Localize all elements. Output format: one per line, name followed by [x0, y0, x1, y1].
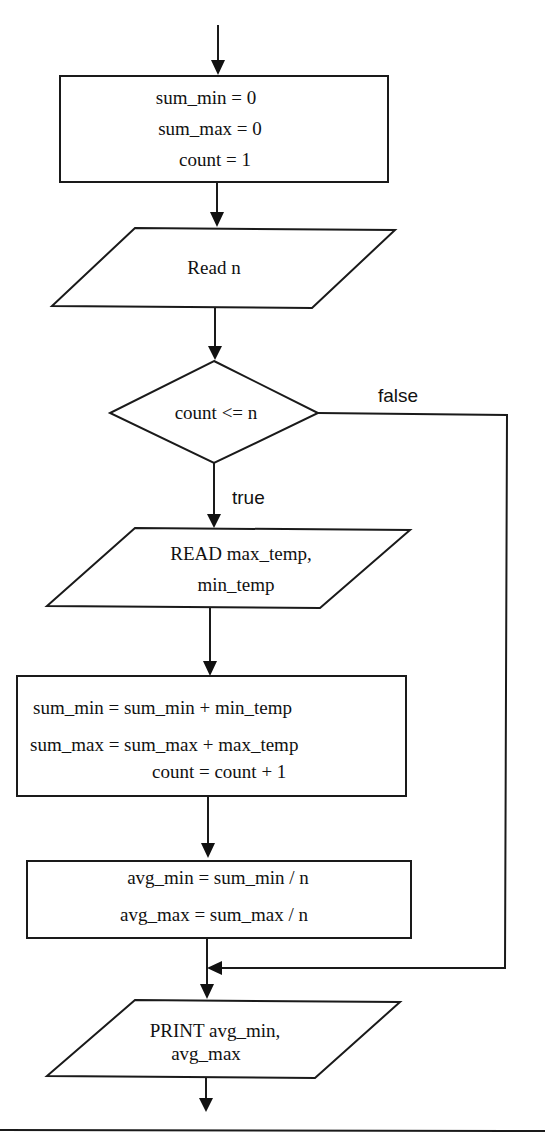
arrow-read-temps-to-accumulate	[203, 607, 217, 676]
entry-arrow	[211, 25, 225, 75]
arrow-read-n-to-decision	[208, 308, 222, 360]
average-process-box: avg_min = sum_min / n avg_max = sum_max …	[27, 861, 411, 938]
average-line-2: avg_max = sum_max / n	[120, 904, 309, 925]
print-output: PRINT avg_min, avg_max	[47, 1000, 400, 1078]
arrow-accumulate-to-average	[201, 797, 215, 858]
decision-diamond: count <= n	[110, 361, 318, 463]
true-branch-arrow	[207, 463, 221, 528]
decision-condition: count <= n	[175, 402, 258, 423]
bottom-rule	[0, 1130, 545, 1131]
read-n-input: Read n	[52, 228, 395, 308]
accumulate-line-1: sum_min = sum_min + min_temp	[33, 697, 292, 718]
init-line-1: sum_min = 0	[156, 87, 256, 108]
print-line-1: PRINT avg_min,	[150, 1020, 281, 1041]
print-line-2: avg_max	[171, 1043, 241, 1064]
false-label: false	[378, 385, 418, 406]
average-line-1: avg_min = sum_min / n	[127, 867, 309, 888]
true-label: true	[232, 487, 265, 508]
arrow-init-to-read-n	[210, 182, 224, 227]
accumulate-process-box: sum_min = sum_min + min_temp sum_max = s…	[17, 676, 406, 796]
read-temps-line-2: min_temp	[197, 574, 274, 595]
read-n-text: Read n	[187, 257, 241, 278]
init-line-3: count = 1	[179, 149, 251, 170]
exit-arrow	[199, 1078, 213, 1112]
read-temps-input: READ max_temp, min_temp	[47, 528, 410, 608]
accumulate-line-3: count = count + 1	[152, 761, 286, 782]
accumulate-line-2: sum_max = sum_max + max_temp	[30, 734, 298, 755]
init-process-box: sum_min = 0 sum_max = 0 count = 1	[60, 76, 388, 182]
flowchart: sum_min = 0 sum_max = 0 count = 1 Read n…	[0, 0, 545, 1133]
read-temps-line-1: READ max_temp,	[170, 543, 311, 564]
init-line-2: sum_max = 0	[158, 118, 262, 139]
